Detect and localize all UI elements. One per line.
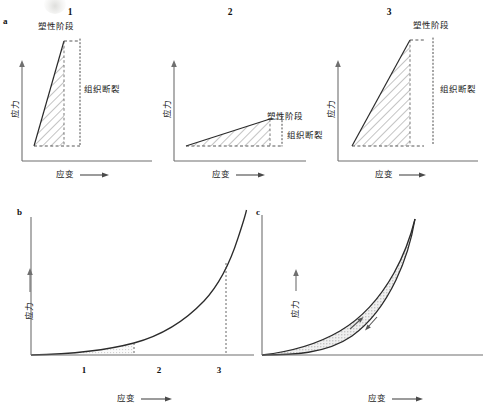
region-fills-b [31, 210, 247, 355]
region-number-3: 3 [212, 366, 226, 375]
y-axis-3 [335, 60, 341, 161]
region-2-fill [31, 210, 247, 355]
x-axis-arrow-c [392, 394, 424, 404]
y-axis-arrow-c [290, 268, 302, 292]
y-axis-1 [19, 60, 25, 161]
x-axis-label-c: 应变 [368, 394, 386, 403]
rupture-label-2: 组织断裂 [287, 131, 323, 140]
plastic-stage-label-3: 塑性阶段 [413, 21, 449, 30]
subpanel-number-3: 3 [381, 8, 397, 18]
region-3-fill [31, 210, 247, 355]
y-axis-label-b: 应力 [25, 302, 34, 320]
x-axis-label-3: 应变 [375, 170, 393, 179]
region-1-fill [31, 210, 247, 355]
x-axis-label-b: 应变 [117, 394, 135, 403]
subpanel-plot-2 [160, 18, 320, 183]
x-axis-arrow-b [141, 394, 173, 404]
rupture-label-1: 组织断裂 [84, 85, 120, 94]
x-axis-arrow-2 [236, 170, 266, 180]
figure-root: a 1 塑性阶段 组织断裂 应力 应变 2 [0, 0, 485, 414]
x-axis-label-1: 应变 [56, 170, 74, 179]
plastic-stage-label-1: 塑性阶段 [38, 22, 74, 31]
subpanel-plot-1 [0, 18, 160, 183]
panel-plot-c [248, 205, 485, 385]
y-axis-arrow-b [24, 267, 36, 293]
stress-curve-b [31, 210, 247, 355]
subpanel-plot-3 [320, 18, 485, 183]
x-axis-label-2: 应变 [212, 170, 230, 179]
y-axis-label-1: 应力 [11, 100, 20, 118]
panel-plot-b [8, 205, 256, 385]
rupture-label-3: 组织断裂 [440, 85, 476, 94]
region-number-2: 2 [152, 366, 166, 375]
y-axis-label-3: 应力 [327, 100, 336, 118]
region-number-1: 1 [77, 366, 91, 375]
x-axis-arrow-3 [399, 170, 427, 180]
y-axis-label-c: 应力 [291, 300, 300, 318]
plastic-stage-label-2: 塑性阶段 [267, 112, 303, 121]
x-axis-arrow-1 [80, 170, 110, 180]
subpanel-number-1: 1 [62, 8, 78, 18]
subpanel-number-2: 2 [222, 8, 238, 18]
y-axis-2 [171, 60, 177, 161]
y-axis-label-2: 应力 [163, 100, 172, 118]
